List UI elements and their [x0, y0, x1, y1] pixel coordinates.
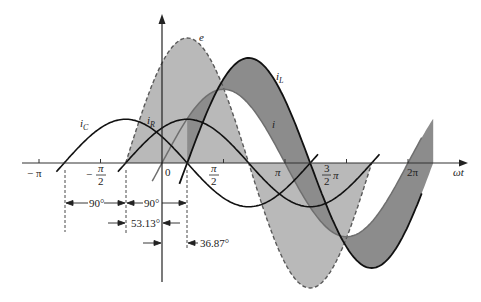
label-omega-t: ωt	[453, 166, 465, 178]
annotation-90-right: 90°	[144, 197, 159, 209]
tick-pi: π	[275, 166, 281, 178]
annotation-90-left: 90°	[89, 197, 104, 209]
tick-half-pi-num: π	[211, 162, 217, 174]
waveform-plot: e iL i iR iC ωt − π − π 2 0 π 2 π 3 2 π …	[0, 0, 481, 302]
phasor-waveform-diagram: e iL i iR iC ωt − π − π 2 0 π 2 π 3 2 π …	[0, 0, 481, 302]
tick-neg-half-pi-den: 2	[98, 175, 104, 187]
tick-zero: 0	[165, 166, 171, 178]
tick-neg-pi: − π	[27, 167, 42, 179]
tick-two-pi: 2π	[407, 166, 419, 178]
tick-three-half-num: 3	[324, 162, 330, 174]
tick-three-half-den: 2	[324, 175, 330, 187]
tick-neg-half-pi-num: π	[98, 162, 104, 174]
tick-half-pi-den: 2	[211, 175, 217, 187]
y-axis-arrow-icon	[159, 14, 166, 24]
label-iL: iL	[276, 70, 284, 85]
tick-three-half-pi: π	[333, 169, 339, 181]
label-i: i	[272, 118, 275, 130]
label-e: e	[199, 31, 204, 43]
tick-neg-half-pi-sign: −	[86, 168, 92, 180]
dimension-guides	[65, 170, 187, 250]
annotation-36-87: 36.87°	[200, 237, 229, 249]
annotation-53-13: 53.13°	[131, 217, 160, 229]
label-iC: iC	[80, 117, 89, 132]
